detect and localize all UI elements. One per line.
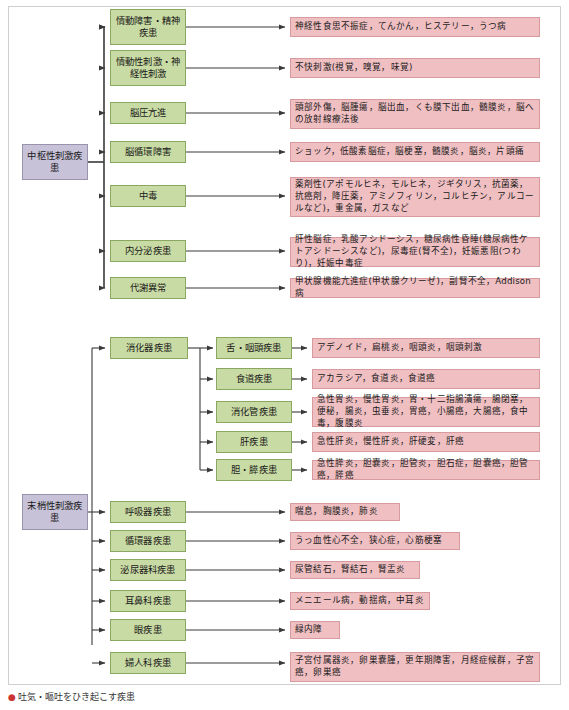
detail-node-ent: メニエール病，動揺病，中耳炎 [290, 592, 430, 610]
category-node-urology[interactable]: 泌尿器科疾患 [110, 559, 186, 581]
subcategory-node-liver[interactable]: 肝疾患 [216, 431, 292, 453]
category-node-cerebral-circulation[interactable]: 脳循環障害 [110, 141, 186, 163]
caption-bullet-icon: ● [8, 692, 16, 702]
category-node-emotional-disorder[interactable]: 情動障害・精神疾患 [110, 9, 186, 45]
category-node-digestive[interactable]: 消化器疾患 [110, 337, 188, 359]
category-node-respiratory[interactable]: 呼吸器疾患 [110, 501, 186, 523]
category-node-circulatory[interactable]: 循環器疾患 [110, 530, 186, 552]
detail-node-intracranial-pressure: 頭部外傷，脳腫瘍，脳出血，くも膜下出血，髄膜炎，脳への放射線療法後 [290, 99, 540, 129]
detail-node-biliary-pancreas: 急性膵炎，胆嚢炎，胆管炎，胆石症，胆嚢癌，胆管癌，膵癌 [312, 460, 540, 480]
caption-text: 吐気・嘔吐をひき起こす疾患 [18, 692, 135, 702]
figure-page: 中枢性刺激疾患 末梢性刺激疾患 情動障害・精神疾患 情動性刺激・神経性刺激 脳圧… [0, 0, 569, 710]
subcategory-node-biliary-pancreas[interactable]: 胆・膵疾患 [216, 459, 292, 481]
detail-node-gi-tract: 急性胃炎，慢性胃炎，胃・十二指腸潰瘍，腸閉塞，便秘，腸炎，虫垂炎，胃癌，小腸癌，… [312, 397, 540, 427]
category-node-ent[interactable]: 耳鼻科疾患 [110, 590, 186, 612]
category-node-eye[interactable]: 眼疾患 [110, 619, 186, 641]
root-node-peripheral[interactable]: 末梢性刺激疾患 [22, 494, 88, 530]
detail-node-gynecology: 子宮付属器炎，卵巣嚢腫，更年期障害，月経症候群，子宮癌，卵巣癌 [290, 652, 540, 682]
detail-node-circulatory: うっ血性心不全，狭心症，心筋梗塞 [290, 532, 460, 550]
figure-caption: ●吐気・嘔吐をひき起こす疾患 [8, 690, 135, 703]
subcategory-node-tongue-pharynx[interactable]: 舌・咽頭疾患 [216, 337, 292, 359]
category-node-intracranial-pressure[interactable]: 脳圧亢進 [110, 102, 186, 124]
detail-node-emotional-stimulus: 不快刺激(視覚，嗅覚，味覚) [290, 58, 540, 78]
category-node-emotional-stimulus[interactable]: 情動性刺激・神経性刺激 [110, 50, 186, 86]
category-node-endocrine[interactable]: 内分泌疾患 [110, 240, 186, 262]
category-node-gynecology[interactable]: 婦人科疾患 [110, 652, 186, 674]
detail-node-tongue-pharynx: アデノイド，扁桃炎，咽頭炎，咽頭刺激 [312, 338, 540, 358]
detail-node-metabolic: 甲状腺機能亢進症(甲状腺クリーゼ)，副腎不全，Addison病 [290, 278, 540, 298]
subcategory-node-esophagus[interactable]: 食道疾患 [216, 368, 292, 390]
detail-node-cerebral-circulation: ショック，低酸素脳症，脳梗塞，髄膜炎，脳炎，片頭痛 [290, 142, 540, 162]
subcategory-node-gi-tract[interactable]: 消化管疾患 [216, 401, 292, 423]
detail-node-emotional-disorder: 神経性食思不振症，てんかん，ヒステリー，うつ病 [290, 17, 540, 37]
category-node-poisoning[interactable]: 中毒 [110, 185, 186, 207]
detail-node-endocrine: 肝性脳症，乳酸アシドーシス，糖尿病性昏睡(糖尿病性ケトアシドーシスなど)，尿毒症… [290, 237, 540, 267]
detail-node-esophagus: アカラシア，食道炎，食道癌 [312, 369, 540, 389]
detail-node-eye: 緑内障 [290, 621, 340, 639]
detail-node-poisoning: 薬剤性(アポモルヒネ，モルヒネ，ジギタリス，抗菌薬，抗癌剤，降圧薬，アミノフィリ… [290, 177, 540, 217]
detail-node-liver: 急性肝炎，慢性肝炎，肝硬変，肝癌 [312, 432, 540, 452]
root-node-central[interactable]: 中枢性刺激疾患 [22, 144, 88, 180]
category-node-metabolic[interactable]: 代謝異常 [110, 277, 186, 299]
detail-node-urology: 尿管結石，腎結石，腎盂炎 [290, 561, 420, 579]
detail-node-respiratory: 喘息，胸膜炎，肺炎 [290, 503, 400, 521]
